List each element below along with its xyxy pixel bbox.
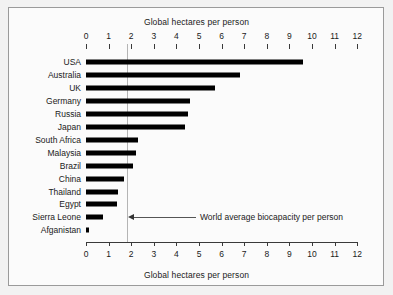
- x-tick-label-bottom-11: 11: [330, 249, 339, 259]
- category-label-malaysia: Malaysia: [0, 148, 81, 158]
- x-tick-label-top-1: 1: [106, 31, 111, 41]
- x-tick-mark-top-0: [86, 44, 87, 49]
- x-tick-mark-top-3: [154, 44, 155, 49]
- x-tick-label-bottom-7: 7: [242, 249, 247, 259]
- x-tick-label-bottom-0: 0: [84, 249, 89, 259]
- bar-australia: [86, 72, 240, 77]
- x-tick-mark-bottom-11: [335, 242, 336, 246]
- x-tick-mark-bottom-0: [86, 242, 87, 246]
- x-tick-label-bottom-5: 5: [197, 249, 202, 259]
- x-tick-mark-bottom-6: [222, 242, 223, 246]
- category-label-russia: Russia: [0, 109, 81, 119]
- x-tick-mark-bottom-10: [312, 242, 313, 246]
- bar-usa: [86, 60, 303, 65]
- bar-germany: [86, 98, 190, 103]
- bar-south-africa: [86, 137, 138, 142]
- x-tick-mark-top-7: [244, 44, 245, 49]
- x-tick-mark-top-9: [289, 44, 290, 49]
- category-label-thailand: Thailand: [0, 187, 81, 197]
- bar-egypt: [86, 202, 117, 207]
- x-tick-label-bottom-12: 12: [352, 249, 361, 259]
- x-tick-label-bottom-4: 4: [174, 249, 179, 259]
- x-tick-mark-bottom-2: [131, 242, 132, 246]
- annotation-leader-line: [134, 217, 196, 218]
- x-tick-label-top-6: 6: [219, 31, 224, 41]
- category-label-brazil: Brazil: [0, 161, 81, 171]
- category-label-australia: Australia: [0, 70, 81, 80]
- x-tick-label-bottom-1: 1: [106, 249, 111, 259]
- x-tick-mark-bottom-12: [357, 242, 358, 246]
- top-axis-title: Global hectares per person: [0, 17, 393, 27]
- figure-container: Global hectares per person Global hectar…: [0, 0, 393, 295]
- x-tick-mark-top-8: [267, 44, 268, 49]
- x-tick-mark-top-4: [176, 44, 177, 49]
- bar-japan: [86, 124, 185, 129]
- x-tick-mark-bottom-9: [289, 242, 290, 246]
- x-tick-label-top-11: 11: [330, 31, 339, 41]
- bar-thailand: [86, 189, 118, 194]
- category-label-china: China: [0, 174, 81, 184]
- x-tick-label-top-8: 8: [264, 31, 269, 41]
- bar-china: [86, 176, 124, 181]
- annotation-arrow-icon: [128, 214, 134, 220]
- bottom-axis-title: Global hectares per person: [0, 270, 393, 280]
- bar-brazil: [86, 163, 133, 168]
- category-label-afganistan: Afganistan: [0, 225, 81, 235]
- bar-russia: [86, 111, 188, 116]
- x-tick-label-bottom-10: 10: [307, 249, 316, 259]
- x-tick-label-top-12: 12: [352, 31, 361, 41]
- x-tick-mark-bottom-5: [199, 242, 200, 246]
- x-tick-label-top-3: 3: [151, 31, 156, 41]
- category-label-uk: UK: [0, 83, 81, 93]
- category-label-south-africa: South Africa: [0, 135, 81, 145]
- x-tick-mark-top-6: [222, 44, 223, 49]
- x-tick-label-bottom-6: 6: [219, 249, 224, 259]
- x-tick-mark-bottom-1: [109, 242, 110, 246]
- x-tick-mark-bottom-7: [244, 242, 245, 246]
- category-label-japan: Japan: [0, 122, 81, 132]
- x-tick-label-bottom-9: 9: [287, 249, 292, 259]
- bar-sierra-leone: [86, 215, 103, 220]
- x-tick-mark-top-12: [357, 44, 358, 49]
- category-label-germany: Germany: [0, 96, 81, 106]
- x-tick-label-top-4: 4: [174, 31, 179, 41]
- x-tick-label-top-5: 5: [197, 31, 202, 41]
- x-tick-label-bottom-2: 2: [129, 249, 134, 259]
- x-tick-label-top-7: 7: [242, 31, 247, 41]
- x-tick-label-top-0: 0: [84, 31, 89, 41]
- bar-afganistan: [86, 228, 89, 233]
- x-tick-mark-bottom-4: [176, 242, 177, 246]
- annotation-label: World average biocapacity per person: [200, 212, 343, 222]
- x-tick-mark-top-2: [131, 44, 132, 49]
- bar-uk: [86, 85, 215, 90]
- x-tick-label-top-10: 10: [307, 31, 316, 41]
- x-tick-mark-bottom-3: [154, 242, 155, 246]
- bar-chart-plot: Global hectares per person Global hectar…: [0, 0, 393, 295]
- category-label-egypt: Egypt: [0, 199, 81, 209]
- x-tick-mark-top-1: [109, 44, 110, 49]
- category-label-sierra-leone: Sierra Leone: [0, 212, 81, 222]
- x-tick-label-top-2: 2: [129, 31, 134, 41]
- x-tick-label-bottom-3: 3: [151, 249, 156, 259]
- x-tick-mark-bottom-8: [267, 242, 268, 246]
- category-label-usa: USA: [0, 57, 81, 67]
- x-tick-label-bottom-8: 8: [264, 249, 269, 259]
- x-tick-mark-top-5: [199, 44, 200, 49]
- bar-malaysia: [86, 150, 136, 155]
- x-tick-label-top-9: 9: [287, 31, 292, 41]
- x-tick-mark-top-10: [312, 44, 313, 49]
- x-tick-mark-top-11: [335, 44, 336, 49]
